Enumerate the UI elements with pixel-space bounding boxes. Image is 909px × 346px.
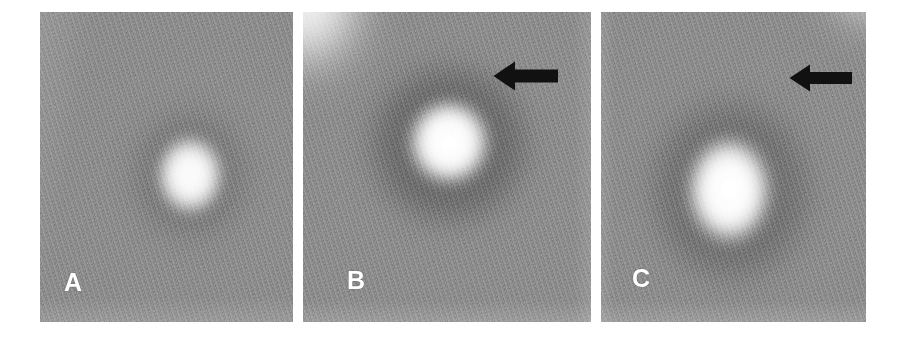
hot-spot-a [149, 127, 231, 223]
panel-label-c: C [632, 266, 650, 291]
panel-label-a: A [64, 270, 82, 295]
left-arrow-icon-b [493, 59, 559, 93]
halo-region-c [639, 86, 823, 294]
panel-label-b: B [347, 268, 365, 293]
left-arrow-icon-c [789, 62, 853, 94]
hot-spot-c [680, 128, 778, 252]
image-panel-c: C [601, 12, 866, 322]
hot-spot-b [401, 92, 497, 192]
corner-glow-b [303, 12, 543, 212]
corner-glow-c [716, 12, 866, 132]
halo-region-b [357, 52, 541, 236]
image-panel-b: B [303, 12, 591, 322]
halo-region-a [118, 95, 262, 255]
image-panel-a: A [40, 12, 293, 322]
figure-container: A B C [0, 0, 909, 346]
